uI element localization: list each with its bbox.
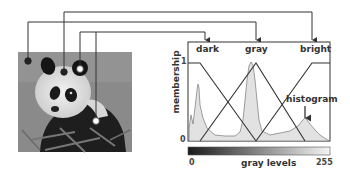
x-axis-label: gray levels [241,159,296,168]
panda-photo [18,52,132,152]
y-axis-label: membership [172,64,181,114]
label-bright: bright [300,45,331,54]
label-dark: dark [196,45,219,54]
sample-point-dark-2 [93,118,100,125]
y-tick-one: 1 [181,58,187,66]
x-tick-max: 255 [316,159,333,167]
sample-point-dark-1 [77,66,84,73]
label-gray: gray [245,45,268,54]
label-histogram: histogram [286,95,338,104]
y-tick-zero: 0 [180,136,186,144]
sample-point-gray [25,58,31,64]
sample-point-bright [61,69,67,75]
x-tick-min: 0 [189,159,195,167]
gray-level-gradient-bar [188,147,330,155]
fuzzy-membership-diagram: dark gray bright histogram membership 1 … [0,0,350,172]
